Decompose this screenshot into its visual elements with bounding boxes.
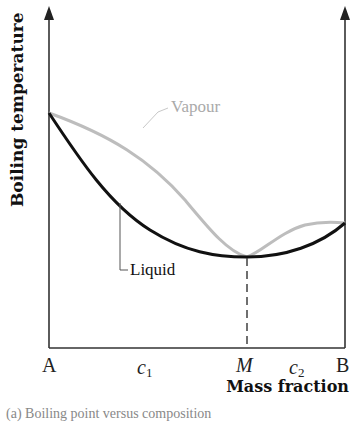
arrow-up-icon <box>340 6 350 20</box>
liquid-curve <box>49 113 345 257</box>
y-axis-label: Boiling temperature <box>5 17 29 207</box>
x-tick-c2-base: c <box>289 356 298 378</box>
arrow-up-icon <box>44 6 54 20</box>
vapour-label: Vapour <box>171 97 220 117</box>
x-tick-c1-base: c <box>137 356 146 378</box>
vapour-leader-line <box>143 108 168 128</box>
figure-caption: (a) Boiling point versus composition <box>6 406 211 422</box>
x-tick-m: M <box>236 355 253 375</box>
x-tick-a: A <box>42 355 56 375</box>
x-tick-c1-sub: 1 <box>146 365 153 380</box>
x-axis-label: Mass fraction <box>226 377 349 396</box>
liquid-label: Liquid <box>130 260 175 280</box>
y-axis-right <box>340 6 350 348</box>
x-tick-b: B <box>336 355 349 375</box>
vapour-curve <box>49 113 345 257</box>
x-tick-c1: c1 <box>137 357 152 383</box>
y-axis <box>44 6 54 348</box>
